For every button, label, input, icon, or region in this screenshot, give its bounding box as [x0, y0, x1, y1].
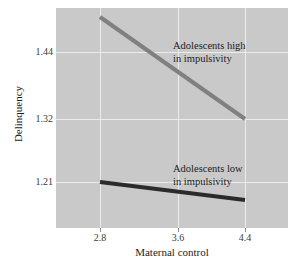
plot-area: Adolescents high in impulsivity Adolesce…	[56, 8, 288, 228]
annotation-low-line1: Adolescents low	[173, 163, 243, 176]
annotation-high-line1: Adolescents high	[173, 40, 246, 53]
y-axis-title: Delinquency	[12, 44, 24, 184]
delinquency-maternal-control-chart: Adolescents high in impulsivity Adolesce…	[0, 0, 302, 265]
x-axis-title: Maternal control	[56, 246, 288, 258]
annotation-low-impulsivity: Adolescents low in impulsivity	[173, 163, 243, 188]
annotation-low-line2: in impulsivity	[173, 176, 243, 189]
xtick-label-28: 2.8	[80, 232, 120, 243]
xtick-label-44: 4.4	[225, 232, 265, 243]
xtick-label-36: 3.6	[158, 232, 198, 243]
annotation-high-impulsivity: Adolescents high in impulsivity	[173, 40, 246, 65]
series-lines	[56, 8, 288, 228]
series-line-high-impulsivity	[100, 17, 245, 119]
annotation-high-line2: in impulsivity	[173, 53, 246, 66]
